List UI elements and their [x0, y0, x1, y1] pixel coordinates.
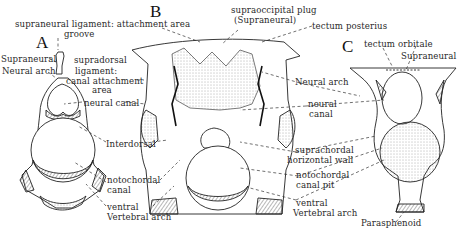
label-a-supradorsal-1: supradorsal: [74, 56, 127, 65]
label-a-notochordal: notochordal: [107, 176, 160, 185]
label-supraneural-ligament: supraneural ligament: attachment area: [15, 20, 190, 29]
label-b-neural: neural: [308, 100, 337, 109]
vertebra-b-drawing: [132, 39, 300, 214]
label-b-neural-arch: Neural arch: [295, 78, 349, 87]
label-c-parasphenoid: Parasphenoid: [361, 219, 421, 228]
label-b-canal-pit: canal pit: [296, 181, 335, 190]
vertebra-c-drawing: [350, 68, 456, 212]
label-c-supraneural: Supraneural: [401, 52, 456, 61]
label-b-notochordal: notochordal: [296, 171, 349, 180]
label-b-horizontal-wall: horizontal wall: [287, 156, 353, 165]
label-b-neural-canal: canal: [309, 110, 333, 119]
label-supraoccipital-plug: supraoccipital plug: [231, 6, 317, 15]
label-groove: groove: [64, 30, 95, 39]
label-a-interdorsal: Interdorsal: [106, 140, 156, 149]
panel-label-a: A: [36, 34, 48, 51]
label-b-ventral: ventral: [296, 199, 328, 208]
label-a-notochordal-canal: canal: [107, 186, 131, 195]
panel-label-b: B: [150, 3, 161, 20]
label-tectum-posterius: tectum posterius: [312, 22, 387, 31]
label-b-vertebral-arch: Vertebral arch: [293, 209, 357, 218]
label-b-suprachordal: suprachordal: [295, 146, 354, 155]
label-a-supradorsal-4: area: [92, 86, 112, 95]
panel-label-c: C: [342, 38, 353, 55]
label-a-supraneural: Supraneural: [1, 55, 56, 64]
label-a-supradorsal-2: ligament:: [75, 67, 117, 76]
label-supraoccipital-plug-sub: (Supraneural): [234, 16, 296, 25]
label-c-tectum-orbitale: tectum orbitale: [364, 40, 433, 49]
label-a-ventral: ventral: [107, 203, 139, 212]
label-a-neural-arch: Neural arch: [2, 67, 56, 76]
label-a-neural-canal: neural canal: [84, 99, 139, 108]
label-a-vertebral-arch: Vertebral arch: [107, 213, 171, 222]
